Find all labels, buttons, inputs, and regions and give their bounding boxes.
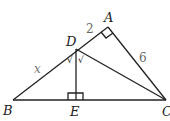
right-angle-mark-e-left bbox=[68, 93, 76, 100]
right-angle-mark-a bbox=[101, 32, 113, 38]
right-angle-mark-e-right bbox=[76, 93, 83, 100]
segment-dc bbox=[76, 49, 166, 100]
length-ad: 2 bbox=[86, 22, 94, 36]
label-a: A bbox=[103, 10, 113, 25]
angle-mark-bde: √ bbox=[67, 55, 73, 65]
label-b: B bbox=[2, 103, 13, 118]
label-c: C bbox=[162, 104, 170, 119]
segment-ac bbox=[108, 27, 166, 100]
angle-mark-edc: √ bbox=[78, 55, 84, 65]
length-ac: 6 bbox=[139, 51, 147, 65]
label-e: E bbox=[69, 104, 80, 119]
label-d: D bbox=[65, 34, 77, 49]
segment-ab bbox=[13, 27, 108, 100]
length-bd: x bbox=[34, 62, 41, 76]
geometry-diagram: √ √ A D B E C 2 6 x bbox=[0, 0, 170, 121]
